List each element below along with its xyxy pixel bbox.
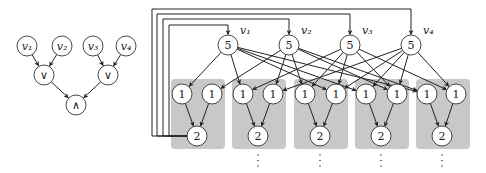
- gadget4-input-node-2-label: 1: [394, 88, 401, 101]
- node-or1-label: ∨: [40, 69, 48, 82]
- continuation-dot: [319, 160, 321, 162]
- node-and-label: ∧: [72, 99, 80, 112]
- variable-label-4: v₄: [423, 24, 434, 37]
- node-or2: ∨: [98, 65, 118, 85]
- variable-node-3: 5: [340, 35, 360, 55]
- gadget3-input-node-1-label: 1: [302, 88, 309, 101]
- variable-node-1-label: 5: [225, 39, 232, 52]
- gadget5-output-node-label: 2: [439, 130, 446, 143]
- gadget3-output-node-label: 2: [317, 130, 324, 143]
- reduction-diagram: v₁v₂v₃v₄∨∨∧ 5v₁5v₂5v₃5v₄112112112112112: [0, 0, 486, 173]
- node-v2: v₂: [52, 36, 72, 56]
- variable-node-2: 5: [279, 35, 299, 55]
- gadget1-input-node-2: 1: [202, 84, 222, 104]
- gadget3-output-node: 2: [310, 126, 330, 146]
- edge-v4-or2: [114, 54, 121, 66]
- gadget5-input-node-1-label: 1: [424, 88, 431, 101]
- continuation-dot: [319, 165, 321, 167]
- node-v3-label: v₃: [88, 40, 99, 53]
- gadget2-input-node-1-label: 1: [240, 88, 247, 101]
- continuation-dot: [257, 154, 259, 156]
- gadget5-input-node-2: 1: [446, 84, 466, 104]
- variable-node-3-label: 5: [347, 39, 354, 52]
- gadget1-output-node-label: 2: [194, 130, 201, 143]
- continuation-dot: [257, 165, 259, 167]
- edge-v3-or2: [98, 55, 104, 66]
- variable-node-2-label: 5: [286, 39, 293, 52]
- gadget3-input-node-1: 1: [295, 84, 315, 104]
- gadget4-input-node-2: 1: [387, 84, 407, 104]
- gadget4-input-node-1-label: 1: [363, 88, 370, 101]
- edge-v1-or1: [32, 55, 39, 66]
- node-v1: v₁: [17, 36, 37, 56]
- continuation-dot: [441, 165, 443, 167]
- variable-label-3: v₃: [362, 24, 373, 37]
- continuation-dot: [380, 154, 382, 156]
- boolean-formula-graph: v₁v₂v₃v₄∨∨∧: [17, 36, 136, 115]
- node-v3: v₃: [83, 36, 103, 56]
- gadget3-input-node-2-label: 1: [333, 88, 340, 101]
- gadget1-input-node-2-label: 1: [209, 88, 216, 101]
- continuation-dot: [441, 154, 443, 156]
- node-v1-label: v₁: [22, 40, 33, 53]
- variable-label-2: v₂: [301, 24, 312, 37]
- continuation-dot: [380, 165, 382, 167]
- continuation-dot: [257, 160, 259, 162]
- continuation-dot: [441, 160, 443, 162]
- node-v4: v₄: [116, 36, 136, 56]
- variable-node-1: 5: [218, 35, 238, 55]
- gadget2-input-node-2-label: 1: [270, 88, 277, 101]
- gadget1-output-node: 2: [187, 126, 207, 146]
- gadget4-output-node-label: 2: [378, 130, 385, 143]
- edge-v2-or1: [50, 54, 57, 66]
- node-and: ∧: [66, 95, 86, 115]
- variable-node-4: 5: [401, 35, 421, 55]
- gadget2-input-node-1: 1: [233, 84, 253, 104]
- variable-node-4-label: 5: [408, 39, 415, 52]
- continuation-dot: [380, 160, 382, 162]
- gadget3-input-node-2: 1: [326, 84, 346, 104]
- gadget2-output-node: 2: [248, 126, 268, 146]
- gadget2-input-node-2: 1: [263, 84, 283, 104]
- gadget5-input-node-1: 1: [417, 84, 437, 104]
- edge-or2-and: [84, 82, 101, 98]
- gadget-graph: 5v₁5v₂5v₃5v₄112112112112112: [152, 9, 470, 167]
- node-or1: ∨: [34, 65, 54, 85]
- variable-label-1: v₁: [240, 24, 251, 37]
- edge-or1-and: [51, 82, 68, 98]
- node-v4-label: v₄: [121, 40, 132, 53]
- gadget1-input-node-1-label: 1: [179, 88, 186, 101]
- gadget2-output-node-label: 2: [255, 130, 262, 143]
- continuation-dot: [319, 154, 321, 156]
- gadget4-input-node-1: 1: [356, 84, 376, 104]
- gadget4-output-node: 2: [371, 126, 391, 146]
- node-v2-label: v₂: [57, 40, 68, 53]
- gadget5-input-node-2-label: 1: [453, 88, 460, 101]
- gadget5-output-node: 2: [432, 126, 452, 146]
- node-or2-label: ∨: [104, 69, 112, 82]
- gadget1-input-node-1: 1: [172, 84, 192, 104]
